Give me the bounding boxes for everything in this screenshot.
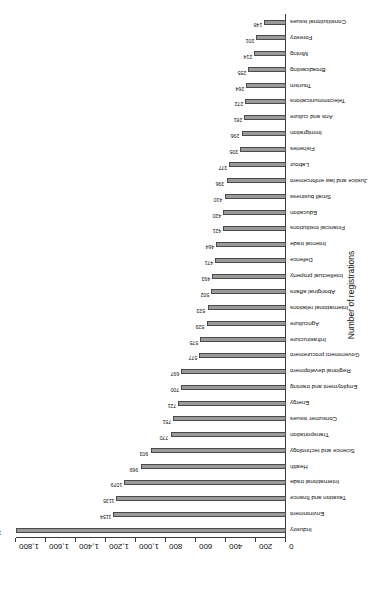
bar-group: 493Intellectual property (16, 268, 286, 284)
tick-label: 1,600 (49, 542, 69, 550)
bar (141, 464, 286, 469)
bar (212, 274, 286, 279)
bar-value-label: 770 (160, 435, 169, 440)
bar (264, 20, 286, 25)
bar-value-label: 421 (212, 228, 221, 233)
bar (225, 194, 287, 199)
tick-mark (165, 538, 166, 542)
tick-mark (255, 538, 256, 542)
bar-group: 421Financial institutions (16, 221, 286, 237)
bar (178, 401, 286, 406)
bar (200, 337, 286, 342)
bar-value-label: 264 (236, 86, 245, 91)
bar-value-label: 1887 (0, 530, 1, 535)
bar-group: 700Employment and training (16, 379, 286, 395)
bar (245, 99, 286, 104)
bar-group: 1887Industry (16, 522, 286, 538)
category-label: Tourism (290, 83, 311, 89)
tick-mark (135, 538, 136, 542)
bar-value-label: 1154 (100, 514, 111, 519)
category-label: International relations (290, 305, 348, 311)
category-label: Arts and culture (290, 114, 333, 120)
bar (256, 35, 286, 40)
bar-value-label: 502 (200, 292, 209, 297)
bar-value-label: 305 (230, 149, 239, 154)
category-label: Transportation (290, 432, 329, 438)
bar-group: 721Energy (16, 395, 286, 411)
bar-value-label: 281 (233, 117, 242, 122)
bar (227, 178, 286, 183)
bar-value-label: 410 (214, 197, 223, 202)
tick-label: 600 (199, 542, 212, 550)
bar-group: 464Internal trade (16, 236, 286, 252)
category-label: Defence (290, 257, 313, 263)
bar-value-label: 201 (245, 38, 254, 43)
bar-value-label: 493 (201, 276, 210, 281)
bar (181, 369, 286, 374)
bar (240, 147, 286, 152)
tick-label: 1,200 (109, 542, 129, 550)
category-label: Small business (290, 194, 331, 200)
bar-value-label: 697 (171, 371, 180, 376)
bar-group: 396Justice and law enforcement (16, 173, 286, 189)
bar-group: 214Mining (16, 46, 286, 62)
bar (116, 496, 286, 501)
category-label: Environment (290, 511, 324, 517)
category-label: Telecommunications (290, 98, 345, 104)
bar-group: 1079International trade (16, 475, 286, 491)
tick-mark (45, 538, 46, 542)
category-label: Forestry (290, 35, 312, 41)
tick-label: 1,800 (19, 542, 39, 550)
category-label: Broadcasting (290, 67, 326, 73)
bar-group: 1135Taxation and finance (16, 490, 286, 506)
bar-value-label: 700 (170, 387, 179, 392)
bar-group: 281Arts and culture (16, 109, 286, 125)
bar (223, 210, 286, 215)
bar-value-label: 148 (253, 22, 262, 27)
bar-group: 577Government procurement (16, 348, 286, 364)
bar-group: 969Health (16, 459, 286, 475)
tick-mark (285, 538, 286, 542)
bar (242, 131, 286, 136)
bar (113, 512, 286, 517)
bar-group: 903Science and technology (16, 443, 286, 459)
bar-group: 529Agriculture (16, 316, 286, 332)
bar (248, 67, 286, 72)
category-label: Regional development (290, 368, 351, 374)
bar-group: 502Aboriginal affairs (16, 284, 286, 300)
bar-value-label: 464 (206, 244, 215, 249)
bar-group: 697Regional development (16, 363, 286, 379)
bar-group: 410Small business (16, 189, 286, 205)
category-label: Taxation and finance (290, 495, 346, 501)
category-label: Fisheries (290, 146, 315, 152)
bar-value-label: 969 (130, 467, 139, 472)
bar (208, 305, 286, 310)
value-axis-title: Number of registrations (346, 0, 356, 590)
tick-label: 1,400 (79, 542, 99, 550)
bar (207, 321, 286, 326)
bar-group: 1154Environment (16, 506, 286, 522)
bar (215, 258, 286, 263)
bar-value-label: 377 (219, 165, 228, 170)
tick-label: 1,000 (139, 542, 159, 550)
tick-mark (75, 538, 76, 542)
bar-value-label: 1079 (111, 482, 123, 487)
bar-value-label: 577 (189, 355, 198, 360)
bar (173, 416, 286, 421)
category-label: Immigration (290, 130, 322, 136)
bar-group: 575Infrastructure (16, 332, 286, 348)
bar (246, 83, 286, 88)
bar-series: 1887Industry1154Environment1135Taxation … (16, 14, 286, 538)
bar-group: 471Defence (16, 252, 286, 268)
bar-value-label: 529 (196, 324, 205, 329)
category-label: Industry (290, 527, 312, 533)
bar (211, 289, 286, 294)
bar (171, 432, 287, 437)
bar (124, 480, 286, 485)
tick-label: 800 (169, 542, 182, 550)
bar-group: 201Forestry (16, 30, 286, 46)
bar-value-label: 575 (189, 340, 198, 345)
category-label: Aboriginal affairs (290, 289, 335, 295)
bar (151, 448, 286, 453)
bar-value-label: 523 (197, 308, 206, 313)
